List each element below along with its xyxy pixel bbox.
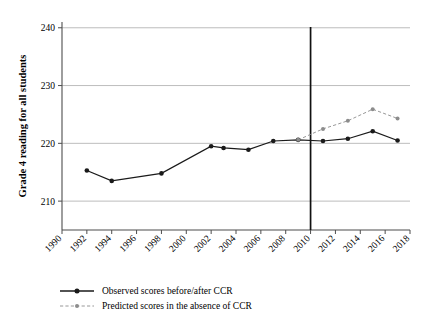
data-point-1-3 — [371, 107, 375, 111]
chart-figure: 2102202302401990199219941996199820002002… — [0, 0, 427, 332]
series-line-0 — [87, 131, 398, 181]
data-point-1-1 — [321, 127, 325, 131]
data-point-0-5 — [246, 147, 251, 152]
chart-legend: Observed scores before/after CCRPredicte… — [60, 286, 253, 311]
y-tick-label-230: 230 — [41, 81, 56, 91]
x-tick-label-1990: 1990 — [43, 233, 64, 254]
data-point-0-4 — [221, 146, 226, 151]
x-tick-label-2002: 2002 — [192, 233, 213, 254]
x-tick-label-2018: 2018 — [391, 233, 412, 254]
data-point-0-1 — [109, 179, 114, 184]
x-tick-label-1992: 1992 — [68, 233, 89, 254]
x-tick-label-1994: 1994 — [93, 233, 114, 254]
data-point-0-3 — [209, 144, 214, 149]
x-axis-ticks: 1990199219941996199820002002200420062008… — [43, 230, 412, 254]
y-tick-label-220: 220 — [41, 139, 56, 149]
data-point-0-0 — [85, 168, 90, 173]
axes — [62, 22, 410, 230]
data-point-1-2 — [346, 119, 350, 123]
data-point-0-10 — [370, 129, 375, 134]
y-axis-ticks: 210220230240 — [41, 23, 62, 206]
data-point-1-0 — [296, 138, 300, 142]
line-chart: 2102202302401990199219941996199820002002… — [0, 0, 427, 332]
legend-marker-0 — [75, 289, 80, 294]
data-point-0-11 — [395, 138, 400, 143]
data-point-1-4 — [396, 116, 400, 120]
y-tick-label-210: 210 — [41, 197, 56, 207]
x-tick-label-2008: 2008 — [267, 233, 288, 254]
x-tick-label-2016: 2016 — [366, 233, 387, 254]
x-tick-label-2006: 2006 — [242, 233, 263, 254]
x-tick-label-2014: 2014 — [341, 233, 362, 254]
x-tick-label-2000: 2000 — [167, 233, 188, 254]
x-tick-label-2012: 2012 — [316, 233, 337, 254]
x-tick-label-1998: 1998 — [142, 233, 163, 254]
x-tick-label-1996: 1996 — [117, 233, 138, 254]
data-point-0-9 — [346, 136, 351, 141]
data-point-0-8 — [321, 139, 326, 144]
y-tick-label-240: 240 — [41, 23, 56, 33]
x-tick-label-2004: 2004 — [217, 233, 238, 254]
data-point-0-6 — [271, 139, 276, 144]
gridlines — [62, 28, 410, 201]
y-axis-title: Grade 4 reading for all students — [17, 55, 28, 198]
data-point-0-2 — [159, 171, 164, 176]
legend-label-1: Predicted scores in the absence of CCR — [102, 301, 253, 311]
legend-label-0: Observed scores before/after CCR — [102, 286, 233, 296]
x-tick-label-2010: 2010 — [291, 233, 312, 254]
series-0 — [85, 129, 400, 183]
legend-marker-1 — [75, 304, 79, 308]
